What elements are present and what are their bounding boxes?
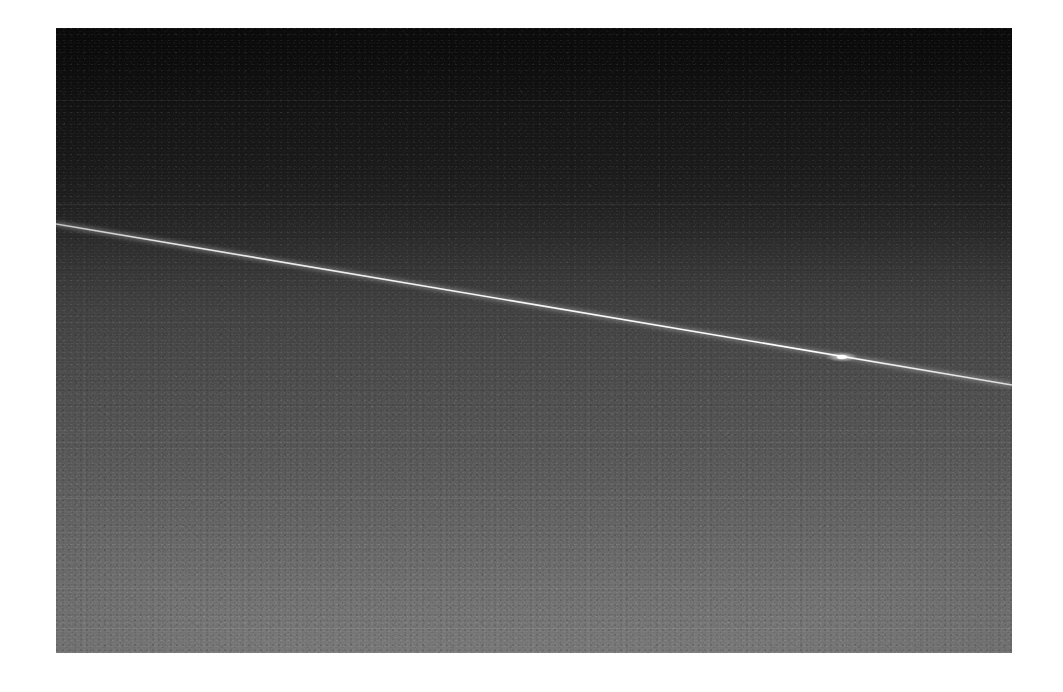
fine-noise-layer: [56, 28, 1012, 653]
trail-core: [56, 224, 1012, 385]
trail-flare-core: [837, 355, 847, 359]
horizontal-banding-layer: [56, 28, 1012, 653]
plate-seam: [56, 588, 1012, 589]
plate-seam: [56, 204, 1012, 205]
plate-seam: [56, 430, 1012, 431]
streak-overlay: [56, 28, 1012, 653]
plate-seam: [56, 544, 1012, 545]
trail-flare: [826, 352, 858, 362]
astronomical-photo: [56, 28, 1012, 653]
satellite-trail-graphic: [56, 28, 1012, 653]
lower-grain-layer: [56, 28, 1012, 653]
page-root: [0, 0, 1063, 692]
trail-glow: [56, 224, 1012, 385]
coarse-noise-layer: [56, 28, 1012, 653]
plate-seam: [56, 100, 1012, 101]
sky-gradient-layer: [56, 28, 1012, 653]
vignette-layer: [56, 28, 1012, 653]
plate-seam: [56, 628, 1012, 629]
plate-seam: [56, 498, 1012, 499]
